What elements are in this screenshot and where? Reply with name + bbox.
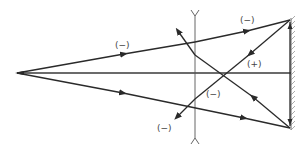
label-reflected-cross: (−) [206,89,221,99]
label-upper-incident-right: (−) [240,15,255,25]
label-reflected-upper: (+) [247,59,262,69]
reflected-ray-lower [177,20,290,117]
ray-diagram: (−) (−) (+) (−) (−) [0,0,308,149]
lower-incident-ray [17,73,290,128]
label-upper-incident: (−) [115,40,130,50]
label-lower-exit: (−) [157,123,172,133]
diverging-lens [191,10,199,144]
